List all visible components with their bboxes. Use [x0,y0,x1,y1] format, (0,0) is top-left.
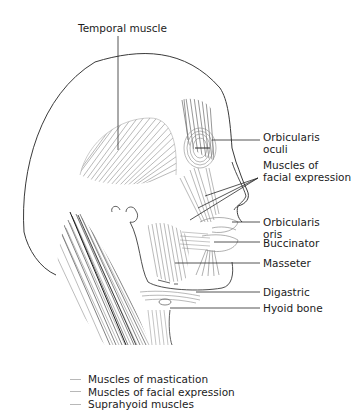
hyoid-bone-shape [159,299,171,305]
label-muscles-of-facial-expression: Muscles of facial expression [263,159,351,183]
legend-label: Suprahyoid muscles [88,398,194,410]
label-temporal-muscle: Temporal muscle [78,22,167,34]
label-orbicularis-oculi-line1: Orbicularis [263,131,320,143]
legend-label: Muscles of facial expression [88,386,235,398]
label-orbicularis-oculi: Orbicularis oculi [263,131,320,155]
label-digastric: Digastric [263,286,310,298]
leader-lines [118,36,260,308]
head-muscle-illustration [0,0,359,411]
label-facial-expression-line2: facial expression [263,171,351,183]
legend-item-suprahyoid: Suprahyoid muscles [70,398,235,411]
legend: Muscles of mastication Muscles of facial… [70,373,235,411]
legend-dash-icon [70,404,81,405]
legend-item-facial-expression: Muscles of facial expression [70,386,235,399]
label-hyoid-bone: Hyoid bone [263,302,323,314]
label-facial-expression-line1: Muscles of [263,159,351,171]
orbicularis-oris-shape [200,218,238,252]
label-buccinator: Buccinator [263,237,319,249]
legend-label: Muscles of mastication [88,373,208,385]
legend-dash-icon [70,391,81,392]
label-masseter: Masseter [263,257,311,269]
legend-dash-icon [70,379,81,380]
label-orbicularis-oris-line1: Orbicularis [263,216,320,228]
legend-item-mastication: Muscles of mastication [70,373,235,386]
label-orbicularis-oculi-line2: oculi [263,143,320,155]
